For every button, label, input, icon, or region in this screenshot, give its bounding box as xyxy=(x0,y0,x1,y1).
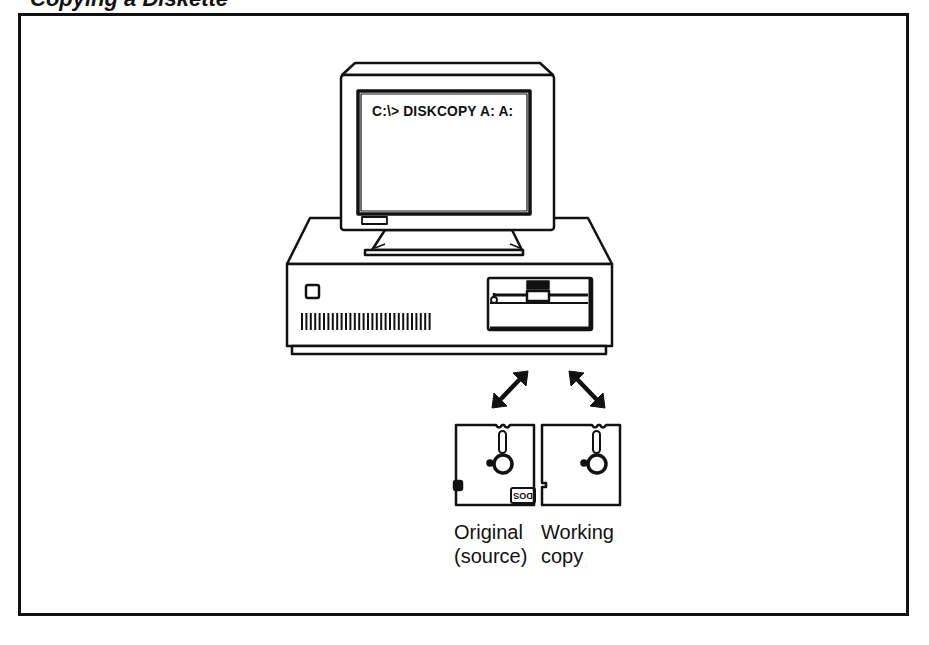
caption-working-line2: copy xyxy=(541,544,614,568)
caption-original-line2: (source) xyxy=(454,544,527,568)
write-protect-tab-icon xyxy=(454,481,462,490)
bidirectional-arrow-working-copy xyxy=(569,371,605,408)
bidirectional-arrow-original xyxy=(492,371,528,408)
floppy-drive-icon xyxy=(488,278,592,330)
disk-label-dos: DOS xyxy=(510,487,536,504)
screen-command-text: C:\> DISKCOPY A: A: xyxy=(372,102,513,119)
monitor-icon xyxy=(341,63,554,230)
floppy-disk-icon xyxy=(542,425,620,505)
caption-working-copy: Working copy xyxy=(541,520,614,568)
monitor-stand xyxy=(365,230,523,255)
caption-original-line1: Original xyxy=(454,520,527,544)
power-button-icon xyxy=(306,285,319,298)
caption-original: Original (source) xyxy=(454,520,527,568)
caption-working-line1: Working xyxy=(541,520,614,544)
